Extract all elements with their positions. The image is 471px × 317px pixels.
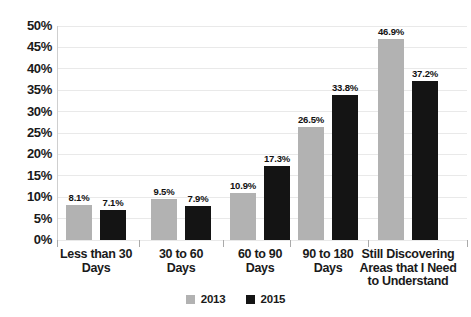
y-axis-label: 5% (0, 212, 52, 226)
bar-value-label: 33.8% (323, 82, 367, 93)
bar-2015 (100, 210, 126, 240)
y-axis-label: 10% (0, 190, 52, 204)
legend-label-2013: 2013 (201, 293, 226, 305)
bar-value-label: 46.9% (369, 26, 413, 37)
y-axis-label: 30% (0, 105, 52, 119)
y-axis-label: 35% (0, 83, 52, 97)
gridline (57, 90, 467, 91)
bar-value-label: 7.9% (176, 193, 220, 204)
bar-value-label: 37.2% (403, 68, 447, 79)
legend-swatch-2013 (186, 295, 195, 304)
bar-value-label: 26.5% (289, 114, 333, 125)
gridline (57, 133, 467, 134)
bar-2015 (185, 206, 211, 240)
legend-label-2015: 2015 (261, 293, 286, 305)
y-axis-label: 50% (0, 19, 52, 33)
y-axis-label: 45% (0, 40, 52, 54)
bar-2015 (264, 166, 290, 240)
gridline (57, 111, 467, 112)
bar-chart: 0%5%10%15%20%25%30%35%40%45%50% 8.1%9.5%… (0, 0, 471, 317)
bar-2015 (332, 95, 358, 240)
bar-value-label: 17.3% (255, 153, 299, 164)
y-axis-label: 15% (0, 169, 52, 183)
y-axis-line (57, 26, 58, 247)
x-axis-tick (139, 240, 140, 247)
gridline (57, 175, 467, 176)
y-axis-label: 25% (0, 126, 52, 140)
y-axis-label: 40% (0, 62, 52, 76)
bar-2013 (378, 39, 404, 240)
gridline (57, 47, 467, 48)
bar-2015 (412, 81, 438, 240)
bar-2013 (230, 193, 256, 240)
y-axis-label: 20% (0, 147, 52, 161)
legend: 20132015 (0, 292, 471, 306)
legend-item-2013: 2013 (186, 293, 226, 305)
x-axis-tick (290, 240, 291, 247)
y-axis-label: 0% (0, 233, 52, 247)
bar-value-label: 7.1% (91, 197, 135, 208)
bar-2013 (66, 205, 92, 240)
bar-value-label: 10.9% (221, 180, 265, 191)
bar-2013 (151, 199, 177, 240)
bar-2013 (298, 127, 324, 240)
x-axis-tick (57, 240, 58, 247)
legend-swatch-2015 (246, 295, 255, 304)
category-label: Still Discovering Areas that I Need to U… (356, 248, 460, 289)
x-axis-tick (368, 240, 369, 247)
x-axis-tick (467, 240, 468, 247)
legend-item-2015: 2015 (246, 293, 286, 305)
x-axis-tick (223, 240, 224, 247)
